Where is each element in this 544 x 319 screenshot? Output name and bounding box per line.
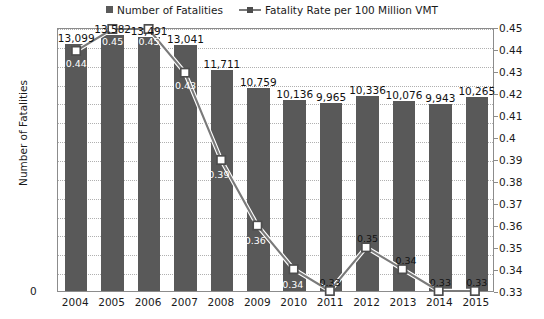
x-axis-tick-label: 2011 (317, 296, 344, 308)
legend-line-marker-icon (239, 6, 261, 14)
rate-value-label: 0.35 (357, 234, 378, 244)
rate-value-label: 0.33 (466, 278, 487, 288)
y-right-tick-mark (494, 28, 498, 29)
rate-marker (362, 243, 370, 251)
rate-value-label: 0.43 (175, 81, 196, 91)
rate-marker (253, 221, 261, 229)
bar-value-label: 9,943 (425, 93, 455, 104)
legend-label-number-of-fatalities: Number of Fatalities (117, 4, 223, 16)
x-axis-tick-label: 2004 (62, 296, 89, 308)
bar-value-label: 11,711 (204, 59, 241, 70)
rate-value-label: 0.45 (138, 37, 159, 47)
y-right-tick-label: 0.4 (499, 133, 539, 144)
rate-marker (217, 156, 225, 164)
bar-value-label: 13,491 (131, 26, 168, 37)
y-right-tick-label: 0.35 (499, 243, 539, 254)
legend-label-fatality-rate: Fatality Rate per 100 Million VMT (265, 4, 438, 16)
y-right-tick-mark (494, 50, 498, 51)
legend-item-fatality-rate: Fatality Rate per 100 Million VMT (239, 4, 438, 16)
y-right-tick-label: 0.45 (499, 23, 539, 34)
x-axis-tick-label: 2013 (390, 296, 417, 308)
chart-container: Number of Fatalities Fatality Rate per 1… (0, 0, 544, 319)
x-axis-tick-label: 2007 (171, 296, 198, 308)
y-right-tick-mark (494, 72, 498, 73)
y-right-tick-mark (494, 182, 498, 183)
rate-marker (471, 287, 479, 295)
rate-line (76, 29, 475, 291)
x-axis-tick-label: 2009 (244, 296, 271, 308)
chart-legend: Number of Fatalities Fatality Rate per 1… (0, 2, 544, 17)
y-right-tick-label: 0.36 (499, 221, 539, 232)
bar-value-label: 10,759 (240, 77, 277, 88)
y-right-tick-mark (494, 138, 498, 139)
x-axis-tick-label: 2014 (426, 296, 453, 308)
rate-value-label: 0.34 (282, 280, 303, 290)
y-axis-left-title: Number of Fatalities (17, 48, 29, 218)
x-axis-tick-label: 2006 (135, 296, 162, 308)
legend-bar-swatch-icon (106, 6, 113, 13)
bar-value-label: 10,076 (386, 90, 423, 101)
x-axis-tick-label: 2010 (280, 296, 307, 308)
y-right-tick-label: 0.43 (499, 67, 539, 78)
rate-value-label: 0.44 (66, 59, 87, 69)
y-right-tick-mark (494, 226, 498, 227)
rate-marker (72, 47, 80, 55)
x-axis-tick-label: 2008 (208, 296, 235, 308)
bar-value-label: 13,582 (94, 24, 131, 35)
bar-value-label: 10,336 (349, 85, 386, 96)
rate-value-label: 0.39 (208, 170, 229, 180)
y-right-tick-label: 0.38 (499, 177, 539, 188)
bar-value-label: 9,965 (316, 92, 346, 103)
rate-value-label: 0.36 (245, 236, 266, 246)
rate-value-label: 0.45 (102, 37, 123, 47)
rate-value-label: 0.34 (395, 256, 416, 266)
line-halo (76, 29, 475, 291)
rate-marker (326, 287, 334, 295)
x-axis-tick-label: 2005 (98, 296, 125, 308)
rate-marker (434, 287, 442, 295)
rate-marker (398, 265, 406, 273)
x-axis-labels: 2004200520062007200820092010201120122013… (57, 296, 494, 316)
y-right-tick-label: 0.34 (499, 265, 539, 276)
y-right-tick-mark (494, 292, 498, 293)
y-right-tick-mark (494, 160, 498, 161)
bar-value-label: 13,099 (58, 33, 95, 44)
rate-value-label: 0.33 (430, 278, 451, 288)
line-series (58, 29, 493, 291)
rate-marker (181, 68, 189, 76)
x-axis-tick-label: 2012 (353, 296, 380, 308)
y-right-tick-label: 0.41 (499, 111, 539, 122)
y-right-tick-label: 0.44 (499, 45, 539, 56)
plot-area: 0.440.450.450.430.390.360.340.330.350.34… (57, 28, 494, 292)
legend-item-number-of-fatalities: Number of Fatalities (106, 4, 223, 16)
x-axis-tick-label: 2015 (462, 296, 489, 308)
y-right-tick-label: 0.33 (499, 287, 539, 298)
bar-value-label: 13,041 (167, 34, 204, 45)
y-axis-zero-label: 0 (30, 285, 37, 297)
bar-value-label: 10,136 (276, 89, 313, 100)
y-right-tick-mark (494, 248, 498, 249)
bar-value-label: 10,265 (458, 86, 495, 97)
y-right-tick-mark (494, 204, 498, 205)
y-right-tick-label: 0.42 (499, 89, 539, 100)
rate-marker (289, 265, 297, 273)
y-right-tick-label: 0.37 (499, 199, 539, 210)
rate-value-label: 0.33 (320, 278, 341, 288)
y-right-tick-mark (494, 116, 498, 117)
y-right-tick-mark (494, 270, 498, 271)
y-right-tick-label: 0.39 (499, 155, 539, 166)
